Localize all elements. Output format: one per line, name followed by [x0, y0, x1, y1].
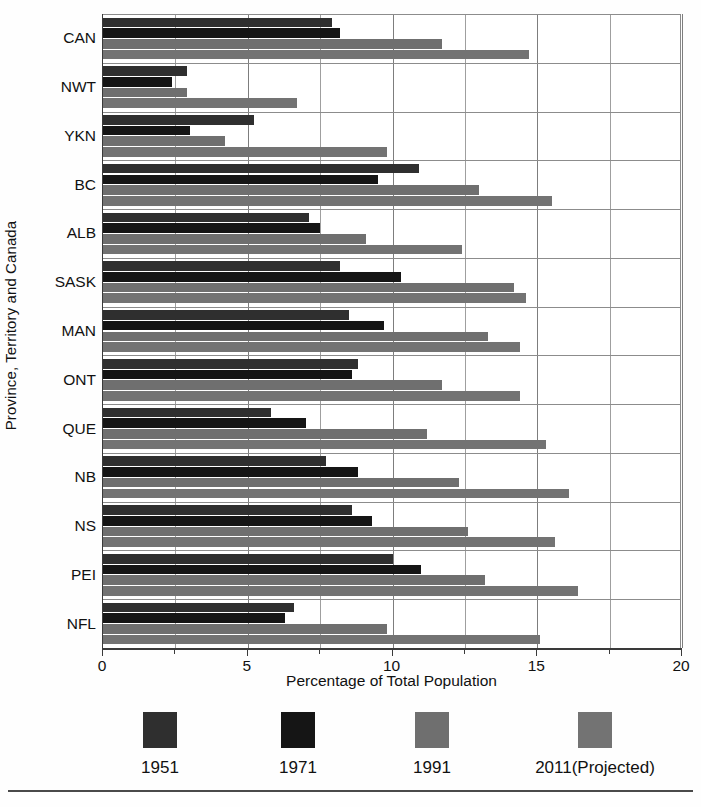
bar — [103, 537, 555, 547]
plot-area — [102, 14, 681, 648]
bar — [103, 185, 479, 195]
bar — [103, 613, 285, 623]
chart-page: Province, Territory and Canada CANNWTYKN… — [0, 0, 701, 807]
bar — [103, 575, 485, 585]
legend-label: 1951 — [100, 758, 220, 778]
bar — [103, 18, 332, 28]
legend-label: 1971 — [238, 758, 358, 778]
bar-group — [103, 258, 680, 307]
y-axis-tick-label-bc: BC — [74, 160, 96, 209]
legend-swatch — [143, 712, 177, 748]
y-axis-tick-label-que: QUE — [62, 404, 96, 453]
x-axis-tick-major — [102, 648, 103, 656]
bar — [103, 245, 462, 255]
legend-item: 1951 — [100, 712, 220, 778]
legend-item: 2011(Projected) — [500, 712, 690, 778]
bar — [103, 321, 384, 331]
chart-legend: 1951197119912011(Projected) — [100, 712, 620, 784]
bar — [103, 293, 526, 303]
bar — [103, 418, 306, 428]
bar — [103, 283, 514, 293]
bar — [103, 370, 352, 380]
y-axis-tick-label-nwt: NWT — [61, 63, 96, 112]
y-axis-tick-labels: CANNWTYKNBCALBSASKMANONTQUENBNSPEINFL — [22, 14, 102, 648]
bar — [103, 310, 349, 320]
bar — [103, 554, 393, 564]
bar — [103, 88, 187, 98]
legend-swatch — [415, 712, 449, 748]
x-axis-title: Percentage of Total Population — [102, 672, 681, 690]
bar — [103, 98, 297, 108]
bar — [103, 164, 419, 174]
y-axis-title-text: Province, Territory and Canada — [3, 220, 20, 430]
y-axis-tick-label-nb: NB — [74, 453, 96, 502]
bar — [103, 467, 358, 477]
bar — [103, 223, 320, 233]
legend-swatch — [281, 712, 315, 748]
bar — [103, 272, 401, 282]
x-axis-tick-major — [247, 648, 248, 656]
x-axis-title-text: Percentage of Total Population — [286, 672, 497, 689]
bar-group — [103, 550, 680, 599]
x-axis-tick-major — [681, 648, 682, 656]
bar — [103, 126, 190, 136]
legend-item: 1991 — [372, 712, 492, 778]
bar — [103, 516, 372, 526]
y-axis-tick-label-sask: SASK — [55, 258, 96, 307]
bar — [103, 136, 225, 146]
x-axis-tick-minor — [464, 648, 465, 654]
bar — [103, 440, 546, 450]
bar-group — [103, 307, 680, 356]
bar — [103, 66, 187, 76]
x-axis-tick-minor — [319, 648, 320, 654]
gridline-vertical — [682, 14, 683, 648]
y-axis-tick-label-can: CAN — [63, 14, 96, 63]
bar-group — [103, 404, 680, 453]
bar-group — [103, 502, 680, 551]
y-axis-tick-label-nfl: NFL — [67, 599, 96, 648]
bar-group — [103, 112, 680, 161]
bar — [103, 234, 366, 244]
y-axis-tick-label-alb: ALB — [67, 209, 96, 258]
bar — [103, 624, 387, 634]
bar — [103, 565, 421, 575]
bar — [103, 77, 172, 87]
footer-caption — [10, 797, 610, 807]
bar-group — [103, 160, 680, 209]
bar — [103, 527, 468, 537]
bar-group — [103, 209, 680, 258]
bar — [103, 635, 540, 645]
bar — [103, 586, 578, 596]
legend-label: 1991 — [372, 758, 492, 778]
bar-group — [103, 14, 680, 63]
footer-divider — [8, 790, 693, 792]
x-axis-tick-minor — [609, 648, 610, 654]
y-axis-tick-label-ont: ONT — [63, 355, 96, 404]
bar — [103, 115, 254, 125]
bar — [103, 342, 520, 352]
bar — [103, 429, 427, 439]
bar — [103, 489, 569, 499]
y-axis-title: Province, Territory and Canada — [0, 0, 22, 650]
bar — [103, 332, 488, 342]
bar — [103, 359, 358, 369]
x-axis-tick-minor — [174, 648, 175, 654]
bar — [103, 380, 442, 390]
bar-group — [103, 355, 680, 404]
bar-group — [103, 599, 680, 648]
bar — [103, 478, 459, 488]
bar — [103, 50, 529, 60]
x-axis-tick-major — [536, 648, 537, 656]
bar-group — [103, 453, 680, 502]
bar — [103, 196, 552, 206]
bar — [103, 213, 309, 223]
y-axis-tick-label-ykn: YKN — [64, 112, 96, 161]
bar — [103, 147, 387, 157]
bar — [103, 261, 340, 271]
bar — [103, 505, 352, 515]
x-axis-tick-major — [392, 648, 393, 656]
legend-label: 2011(Projected) — [500, 758, 690, 778]
bar — [103, 603, 294, 613]
bar — [103, 408, 271, 418]
x-axis-line: 05101520 — [102, 648, 681, 650]
